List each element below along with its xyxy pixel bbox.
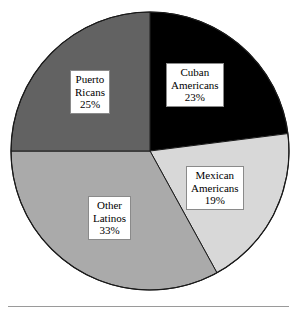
pie-label-puerto-ricans-line2: Ricans: [75, 86, 105, 99]
pie-chart-figure: Cuban Americans 23% Puerto Ricans 25% Me…: [0, 0, 297, 316]
pie-label-other-latinos-value: 33%: [93, 224, 126, 237]
pie-label-cuban-americans-value: 23%: [171, 91, 219, 104]
pie-label-mexican-americans-value: 19%: [191, 194, 239, 207]
pie-label-mexican-americans-line1: Mexican: [191, 169, 239, 182]
pie-label-other-latinos-line2: Latinos: [93, 212, 126, 225]
pie-label-cuban-americans-line2: Americans: [171, 79, 219, 92]
pie-label-cuban-americans: Cuban Americans 23%: [166, 63, 224, 107]
pie-label-other-latinos: Other Latinos 33%: [88, 196, 131, 240]
pie-label-puerto-ricans: Puerto Ricans 25%: [70, 70, 110, 114]
pie-label-other-latinos-line1: Other: [93, 199, 126, 212]
pie-chart-canvas: [0, 0, 297, 316]
pie-label-cuban-americans-line1: Cuban: [171, 66, 219, 79]
pie-label-puerto-ricans-value: 25%: [75, 98, 105, 111]
pie-label-puerto-ricans-line1: Puerto: [75, 73, 105, 86]
pie-label-mexican-americans-line2: Americans: [191, 182, 239, 195]
footer-divider: [8, 306, 289, 307]
pie-label-mexican-americans: Mexican Americans 19%: [186, 166, 244, 210]
